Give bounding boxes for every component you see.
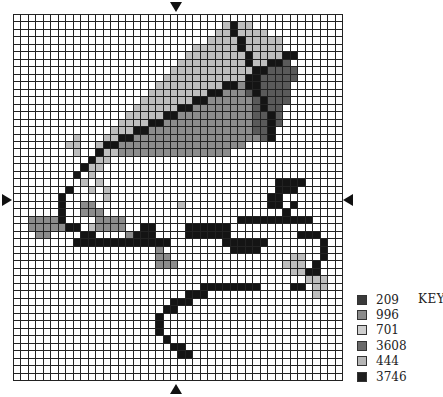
- grid-cell: [96, 299, 102, 305]
- grid-cell: [89, 157, 95, 163]
- grid-cell: [21, 321, 27, 327]
- grid-cell: [306, 329, 312, 335]
- grid-cell: [36, 82, 42, 88]
- grid-cell: [96, 164, 102, 170]
- grid-cell: [21, 224, 27, 230]
- grid-cell: [134, 261, 140, 267]
- grid-cell: [171, 194, 177, 200]
- grid-cell: [89, 359, 95, 365]
- grid-cell: [193, 82, 199, 88]
- grid-cell: [149, 336, 155, 342]
- grid-cell: [29, 105, 35, 111]
- grid-cell: [208, 105, 214, 111]
- grid-cell: [208, 254, 214, 260]
- grid-cell: [134, 299, 140, 305]
- grid-cell: [283, 366, 289, 372]
- grid-cell: [238, 60, 244, 66]
- grid-cell: [134, 284, 140, 290]
- grid-cell: [66, 172, 72, 178]
- grid-cell: [21, 336, 27, 342]
- grid-cell: [81, 306, 87, 312]
- grid-cell: [44, 224, 50, 230]
- grid-cell: [208, 299, 214, 305]
- grid-cell: [306, 82, 312, 88]
- grid-cell: [306, 314, 312, 320]
- grid-cell: [321, 67, 327, 73]
- grid-cell: [141, 112, 147, 118]
- grid-cell: [298, 306, 304, 312]
- grid-cell: [238, 135, 244, 141]
- grid-cell: [111, 217, 117, 223]
- grid-cell: [59, 22, 65, 28]
- grid-cell: [36, 276, 42, 282]
- grid-cell: [201, 135, 207, 141]
- grid-cell: [291, 194, 297, 200]
- key-item-code: 701: [376, 323, 399, 337]
- grid-cell: [96, 22, 102, 28]
- grid-cell: [336, 202, 342, 208]
- key-item: 701: [357, 323, 407, 338]
- grid-cell: [246, 30, 252, 36]
- grid-cell: [156, 359, 162, 365]
- grid-cell: [246, 217, 252, 223]
- grid-cell: [21, 82, 27, 88]
- grid-cell: [216, 105, 222, 111]
- grid-cell: [21, 157, 27, 163]
- grid-cell: [164, 52, 170, 58]
- grid-cell: [89, 254, 95, 260]
- grid-cell: [283, 351, 289, 357]
- grid-cell: [298, 344, 304, 350]
- grid-cell: [193, 97, 199, 103]
- grid-cell: [119, 232, 125, 238]
- grid-cell: [253, 284, 259, 290]
- grid-cell: [44, 374, 50, 380]
- grid-cell: [36, 37, 42, 43]
- grid-cell: [246, 37, 252, 43]
- grid-cell: [336, 52, 342, 58]
- grid-cell: [96, 37, 102, 43]
- grid-cell: [178, 172, 184, 178]
- grid-cell: [51, 149, 57, 155]
- grid-cell: [29, 187, 35, 193]
- grid-cell: [156, 157, 162, 163]
- grid-cell: [74, 336, 80, 342]
- grid-cell: [104, 202, 110, 208]
- grid-cell: [208, 60, 214, 66]
- grid-cell: [156, 149, 162, 155]
- grid-cell: [96, 172, 102, 178]
- grid-cell: [164, 344, 170, 350]
- grid-cell: [246, 209, 252, 215]
- grid-cell: [96, 75, 102, 81]
- grid-cell: [104, 82, 110, 88]
- grid-cell: [81, 172, 87, 178]
- grid-cell: [328, 351, 334, 357]
- grid-cell: [223, 187, 229, 193]
- grid-cell: [283, 52, 289, 58]
- grid-cell: [178, 127, 184, 133]
- grid-cell: [321, 179, 327, 185]
- grid-cell: [164, 149, 170, 155]
- grid-cell: [141, 321, 147, 327]
- grid-cell: [134, 187, 140, 193]
- grid-cell: [246, 67, 252, 73]
- grid-cell: [104, 60, 110, 66]
- grid-cell: [216, 52, 222, 58]
- grid-cell: [201, 276, 207, 282]
- grid-cell: [119, 22, 125, 28]
- grid-cell: [231, 217, 237, 223]
- grid-cell: [126, 276, 132, 282]
- grid-cell: [216, 329, 222, 335]
- grid-cell: [66, 67, 72, 73]
- grid-cell: [261, 276, 267, 282]
- grid-cell: [261, 284, 267, 290]
- grid-cell: [104, 30, 110, 36]
- grid-cell: [111, 321, 117, 327]
- grid-cell: [201, 269, 207, 275]
- grid-cell: [164, 37, 170, 43]
- grid-cell: [291, 60, 297, 66]
- grid-cell: [21, 344, 27, 350]
- grid-cell: [208, 232, 214, 238]
- grid-cell: [276, 105, 282, 111]
- key-item-code: 3746: [376, 370, 407, 384]
- grid-cell: [171, 202, 177, 208]
